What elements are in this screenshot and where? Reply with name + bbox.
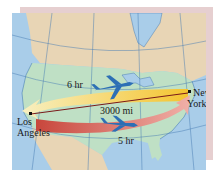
city-marker-icon xyxy=(188,90,191,93)
los-angeles-label-line2: Angeles xyxy=(17,128,50,138)
eastbound-time-label: 5 hr xyxy=(118,136,134,146)
distance-label: 3000 mi xyxy=(100,106,133,116)
los-angeles-label-line1: Los xyxy=(17,117,32,127)
new-york-label-line2: York xyxy=(187,99,206,109)
new-york-label-line1: New xyxy=(193,88,206,98)
map-graphic xyxy=(12,13,206,170)
westbound-time-label: 6 hr xyxy=(67,80,83,90)
city-marker-icon xyxy=(29,112,32,115)
us-map: 6 hr 3000 mi 5 hr New York Los Angeles xyxy=(12,13,206,170)
